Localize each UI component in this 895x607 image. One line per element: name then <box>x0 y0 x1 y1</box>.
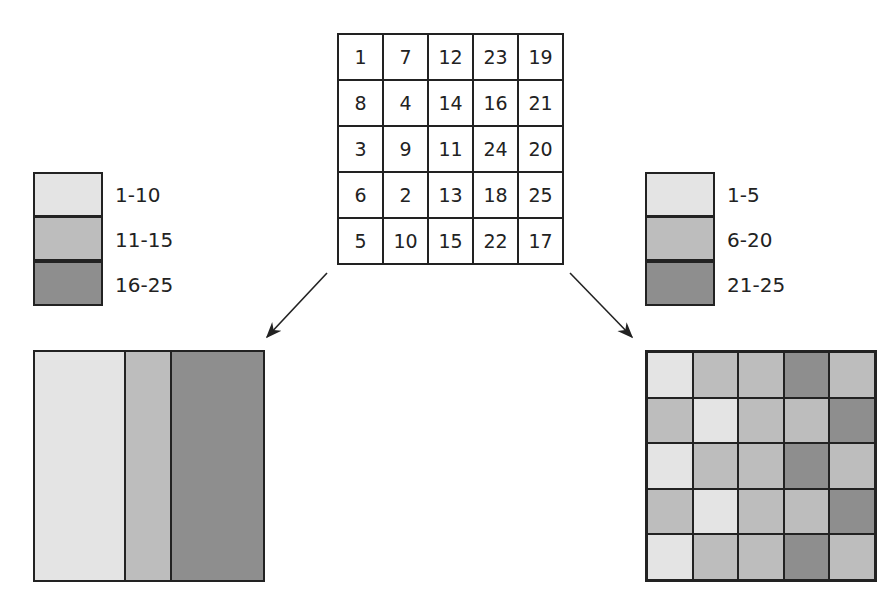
arrows <box>0 0 895 607</box>
arrow-right-icon <box>570 273 632 337</box>
arrow-left-icon <box>267 273 327 337</box>
